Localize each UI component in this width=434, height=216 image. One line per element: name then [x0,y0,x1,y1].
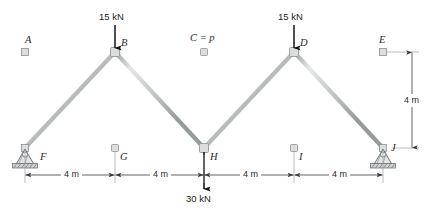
joint-label-B: B [121,38,127,49]
load-label-D: 15 kN [278,12,303,22]
joint-I [291,145,298,152]
joint-label-J: J [391,143,396,154]
load-label-H: 30 kN [186,194,211,204]
joint-B [111,48,120,57]
joint-C [201,49,208,56]
member-H-D [204,52,294,148]
dim-label-EJ: 4 m [402,94,421,107]
vertical-members [25,52,383,148]
member-F-B [25,52,115,148]
joint-label-A: A [25,35,31,46]
dim-label-HI: 4 m [240,170,261,179]
joint-label-F: F [40,152,46,163]
dim-label-GH: 4 m [150,170,171,179]
joint-G [112,145,119,152]
dim-label-FG: 4 m [61,170,82,179]
truss-diagram: A B C = p D E F G H I J 15 kN 15 kN 30 k… [0,0,434,216]
joint-D [290,48,299,57]
joint-A [22,49,29,56]
joint-E [380,49,387,56]
truss-canvas [0,0,434,216]
joint-label-C: C = p [190,33,215,44]
truss-members [25,52,383,148]
joint-label-D: D [300,38,308,49]
joint-label-H: H [210,152,218,163]
joint-H [200,144,209,153]
member-D-J [294,52,383,148]
joint-label-G: G [120,152,128,163]
joint-label-E: E [379,35,385,46]
dim-label-IJ: 4 m [329,170,350,179]
dimension-extension-lines [25,52,419,183]
joint-label-I: I [299,152,303,163]
load-label-B: 15 kN [99,12,124,22]
member-B-H [115,52,204,148]
